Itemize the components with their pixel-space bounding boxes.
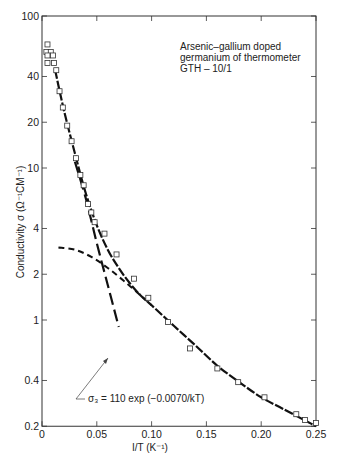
legend-line-1: Arsenic–gallium doped	[180, 41, 281, 52]
data-point-square	[215, 366, 220, 371]
y-tick-label: 1	[33, 314, 39, 326]
y-tick-label: 100	[21, 10, 39, 22]
x-tick-label: 0.15	[196, 428, 217, 440]
data-point-square	[60, 105, 65, 110]
plot-frame	[42, 16, 316, 426]
data-point-square	[146, 295, 151, 300]
data-point-square	[132, 276, 137, 281]
y-tick-label: 4	[33, 222, 39, 234]
y-tick-label: 0.4	[24, 374, 39, 386]
data-point-square	[294, 412, 299, 417]
data-point-square	[69, 139, 74, 144]
chart: 00.050.100.150.200.25 0.20.4124102040100…	[0, 0, 337, 463]
data-point-square	[102, 231, 107, 236]
fit-curves	[55, 70, 316, 426]
data-point-square	[187, 346, 192, 351]
data-point-square	[166, 320, 171, 325]
legend-line-2: germanium of thermometer	[180, 52, 301, 63]
data-point-square	[45, 42, 50, 47]
y-tick-label: 10	[27, 162, 39, 174]
y-axis-label: Conductivity σ (Ω⁻¹CM⁻¹)	[15, 166, 26, 279]
data-point-square	[57, 89, 62, 94]
y-tick-label: 20	[27, 116, 39, 128]
data-point-square	[86, 201, 91, 206]
data-point-square	[45, 53, 50, 58]
data-point-square	[314, 421, 319, 426]
data-point-square	[78, 172, 83, 177]
data-point-square	[89, 210, 94, 215]
data-points	[44, 42, 319, 426]
data-point-square	[92, 220, 97, 225]
data-point-square	[45, 61, 50, 66]
x-axis-label: I/T (K⁻¹)	[132, 442, 168, 453]
y-tick-label: 40	[27, 70, 39, 82]
annotation-sigma3: σ₃ = 110 exp (−0.0070/kT)	[76, 358, 204, 404]
data-point-square	[262, 395, 267, 400]
legend-line-3: GTH – 10/1	[180, 63, 232, 74]
data-point-square	[65, 123, 70, 128]
data-point-square	[236, 380, 241, 385]
x-tick-label: 0.05	[87, 428, 108, 440]
curve-line	[58, 247, 151, 305]
data-point-square	[52, 61, 57, 66]
data-point-square	[114, 252, 119, 257]
curve-line	[55, 70, 316, 426]
annotation-text: σ₃ = 110 exp (−0.0070/kT)	[88, 393, 204, 404]
y-axis: 0.20.4124102040100	[21, 10, 316, 432]
x-axis: 00.050.100.150.200.25	[39, 16, 326, 440]
data-point-square	[81, 183, 86, 188]
x-tick-label: 0.10	[141, 428, 162, 440]
x-tick-label: 0.25	[306, 428, 327, 440]
y-tick-label: 2	[33, 268, 39, 280]
x-tick-label: 0	[39, 428, 45, 440]
data-point-square	[50, 53, 55, 58]
data-point-square	[73, 156, 78, 161]
data-point-square	[54, 68, 59, 73]
x-tick-label: 0.20	[251, 428, 272, 440]
data-point-square	[303, 417, 308, 422]
y-tick-label: 0.2	[24, 420, 39, 432]
